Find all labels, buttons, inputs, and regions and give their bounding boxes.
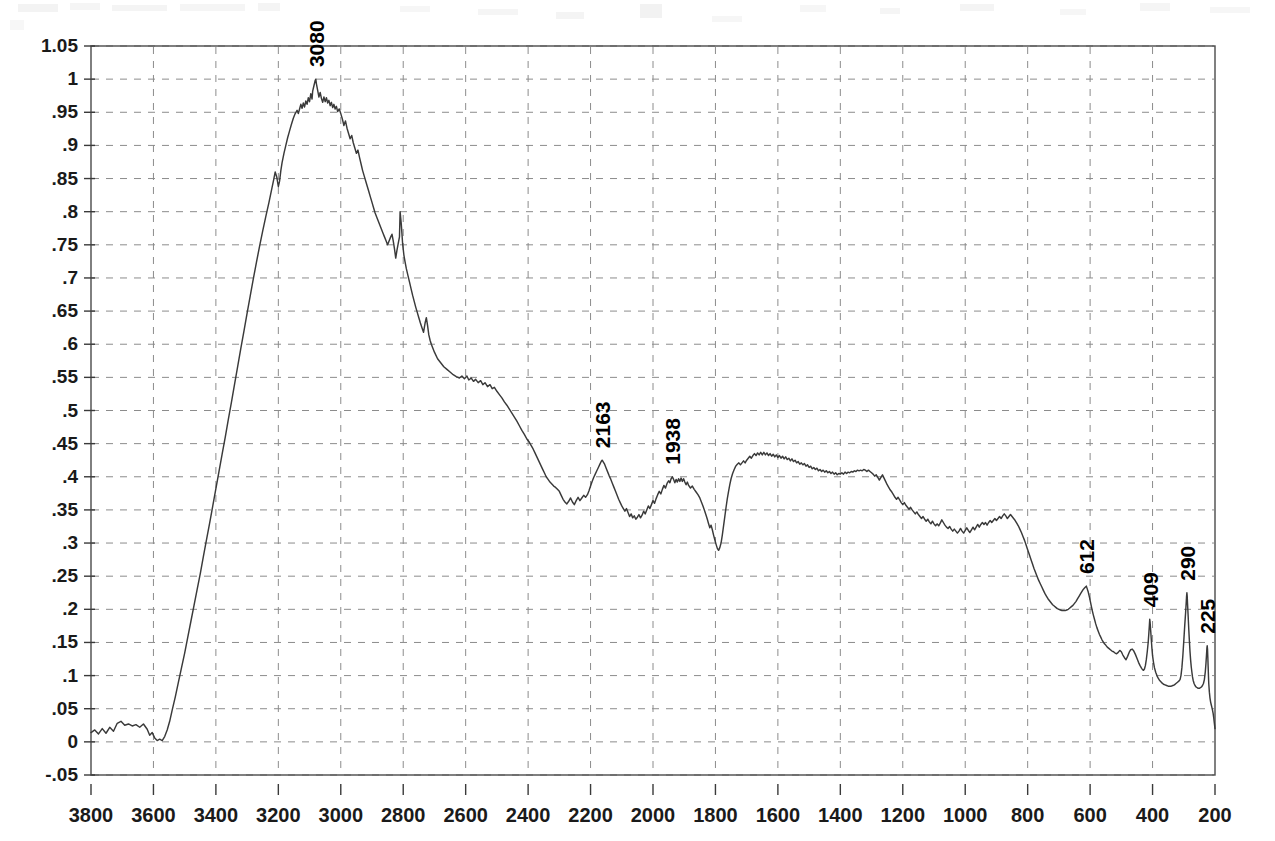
y-tick-label: .5 [62,400,78,421]
y-tick-label: -.05 [45,764,78,785]
y-tick-label: .25 [52,565,79,586]
peak-annotation: 409 [1139,572,1162,607]
x-tick-label: 600 [1073,804,1106,826]
y-tick-label: 1.05 [41,35,78,56]
x-tick-label: 2400 [506,804,551,826]
y-tick-label: .8 [62,201,78,222]
y-tick-label: .15 [52,631,79,652]
y-tick-label: 0 [67,731,78,752]
y-tick-label: .55 [52,366,79,387]
y-tick-label: .05 [52,698,79,719]
y-tick-label: .35 [52,499,79,520]
x-tick-label: 3600 [131,804,176,826]
x-tick-label: 800 [1011,804,1044,826]
peak-label-2163: 2163 [591,401,614,448]
x-tick-label: 1000 [943,804,988,826]
y-tick-label: .7 [62,267,78,288]
peak-label-409: 409 [1139,572,1162,607]
spectrum-plot-svg: -.050.05.1.15.2.25.3.35.4.45.5.55.6.65.7… [0,0,1275,841]
y-tick-label: .4 [62,466,78,487]
x-tick-label: 3800 [69,804,114,826]
x-axis-ticks [91,784,1215,795]
x-tick-label: 2000 [631,804,676,826]
peak-label-3080: 3080 [305,20,328,67]
peak-annotation: 290 [1176,546,1199,581]
x-tick-label: 1800 [693,804,738,826]
y-tick-label: 1 [67,68,78,89]
ir-spectrum-chart: -.050.05.1.15.2.25.3.35.4.45.5.55.6.65.7… [0,0,1275,841]
y-tick-label: .3 [62,532,78,553]
y-tick-label: .95 [52,101,79,122]
y-tick-label: .6 [62,333,78,354]
peak-annotation: 2163 [591,401,614,448]
x-tick-label: 3400 [194,804,239,826]
x-tick-label: 2200 [568,804,613,826]
peak-label-290: 290 [1176,546,1199,581]
x-tick-label: 1200 [881,804,926,826]
x-tick-label: 1600 [756,804,801,826]
y-tick-label: .85 [52,168,79,189]
y-axis-tick-labels: -.050.05.1.15.2.25.3.35.4.45.5.55.6.65.7… [41,35,78,785]
y-tick-label: .1 [62,665,78,686]
peak-annotation: 1938 [661,418,684,465]
x-tick-label: 2600 [443,804,488,826]
y-tick-label: .65 [52,300,79,321]
y-tick-label: .75 [52,234,79,255]
x-tick-label: 400 [1136,804,1169,826]
x-tick-label: 3200 [256,804,301,826]
x-axis-tick-labels: 3800360034003200300028002600240022002000… [69,804,1232,826]
y-tick-label: .2 [62,598,78,619]
y-tick-label: .45 [52,433,79,454]
y-tick-label: .9 [62,134,78,155]
peak-label-1938: 1938 [661,418,684,465]
y-axis-ticks [84,46,95,775]
x-tick-label: 3000 [319,804,364,826]
peak-annotation: 225 [1196,598,1219,633]
x-tick-label: 1400 [818,804,863,826]
peak-label-225: 225 [1196,598,1219,633]
peak-annotation: 3080 [305,20,328,67]
peak-annotations: 308021631938612409290225 [305,20,1219,633]
peak-annotation: 612 [1075,539,1098,574]
peak-label-612: 612 [1075,539,1098,574]
x-tick-label: 200 [1198,804,1231,826]
x-tick-label: 2800 [381,804,426,826]
